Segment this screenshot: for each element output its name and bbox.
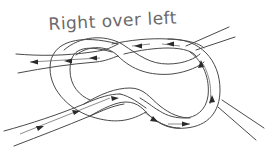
arrow-right-loop-lower: [209, 95, 215, 103]
arrow-top-right: [166, 42, 174, 47]
arrow-lower-crossing: [111, 96, 119, 101]
reef-knot-diagram: [0, 0, 274, 157]
arrow-bottom-left-end: [36, 126, 44, 131]
working-rope: [4, 38, 220, 146]
arrow-left-upper: [89, 56, 97, 61]
arrow-left-middle: [64, 59, 72, 64]
arrow-top-middle: [134, 44, 142, 49]
static-rope: [50, 27, 264, 140]
arrow-left-end: [30, 60, 38, 65]
arrow-bottom-loop: [182, 122, 190, 127]
